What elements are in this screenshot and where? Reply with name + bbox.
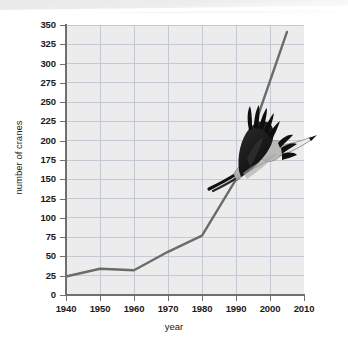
x-tick-1990 bbox=[236, 296, 237, 301]
x-tick-1950 bbox=[100, 296, 101, 301]
y-tick-150 bbox=[60, 179, 65, 180]
y-tick-label-75: 75 bbox=[16, 231, 56, 242]
x-tick-1980 bbox=[202, 296, 203, 301]
y-axis-title: number of cranes bbox=[13, 88, 24, 228]
y-tick-0 bbox=[60, 295, 65, 296]
y-tick-175 bbox=[60, 160, 65, 161]
y-tick-225 bbox=[60, 121, 65, 122]
y-tick-200 bbox=[60, 141, 65, 142]
y-tick-75 bbox=[60, 237, 65, 238]
plot-area bbox=[66, 25, 304, 295]
y-tick-325 bbox=[60, 44, 65, 45]
y-tick-label-50: 50 bbox=[16, 250, 56, 261]
x-tick-label-2010: 2010 bbox=[284, 303, 324, 314]
x-axis-line bbox=[65, 294, 305, 296]
x-axis-title: year bbox=[0, 321, 348, 332]
y-axis-line bbox=[65, 24, 67, 296]
y-tick-275 bbox=[60, 83, 65, 84]
x-tick-2010 bbox=[304, 296, 305, 301]
y-tick-125 bbox=[60, 199, 65, 200]
x-tick-1960 bbox=[134, 296, 135, 301]
y-tick-label-350: 350 bbox=[16, 19, 56, 30]
data-line bbox=[66, 25, 304, 295]
y-tick-label-300: 300 bbox=[16, 58, 56, 69]
crane-population-chart: 0255075100125150175200225250275300325350… bbox=[0, 0, 348, 342]
y-tick-250 bbox=[60, 102, 65, 103]
y-tick-label-275: 275 bbox=[16, 77, 56, 88]
y-tick-25 bbox=[60, 276, 65, 277]
y-tick-300 bbox=[60, 64, 65, 65]
x-tick-1940 bbox=[66, 296, 67, 301]
x-tick-1970 bbox=[168, 296, 169, 301]
y-tick-label-25: 25 bbox=[16, 270, 56, 281]
x-tick-2000 bbox=[270, 296, 271, 301]
y-tick-350 bbox=[60, 25, 65, 26]
y-tick-100 bbox=[60, 218, 65, 219]
y-tick-label-325: 325 bbox=[16, 38, 56, 49]
y-tick-label-0: 0 bbox=[16, 289, 56, 300]
y-tick-50 bbox=[60, 256, 65, 257]
